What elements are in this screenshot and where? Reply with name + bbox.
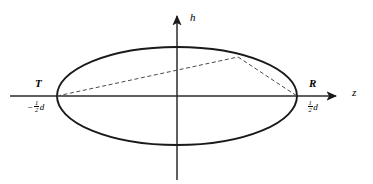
one-half-fraction: 1 2 <box>34 100 39 114</box>
z-axis-label: z <box>352 87 356 98</box>
transmitter-label: T <box>35 78 42 89</box>
fraction-denominator: 2 <box>308 107 313 114</box>
distance-variable: d <box>313 103 318 112</box>
transmitter-coordinate-label: − 1 2 d <box>27 100 44 114</box>
minus-sign: − <box>27 103 33 112</box>
receiver-coordinate-label: 1 2 d <box>307 100 318 114</box>
distance-variable: d <box>40 103 45 112</box>
receiver-label: R <box>309 78 316 89</box>
ellipse-diagram-figure: h z T − 1 2 d R 1 2 d <box>0 0 373 184</box>
diagram-canvas <box>0 0 373 184</box>
h-axis-label: h <box>190 12 196 23</box>
one-half-fraction: 1 2 <box>308 100 313 114</box>
fraction-denominator: 2 <box>34 107 39 114</box>
ray-transmitter-to-reflection <box>57 57 238 96</box>
